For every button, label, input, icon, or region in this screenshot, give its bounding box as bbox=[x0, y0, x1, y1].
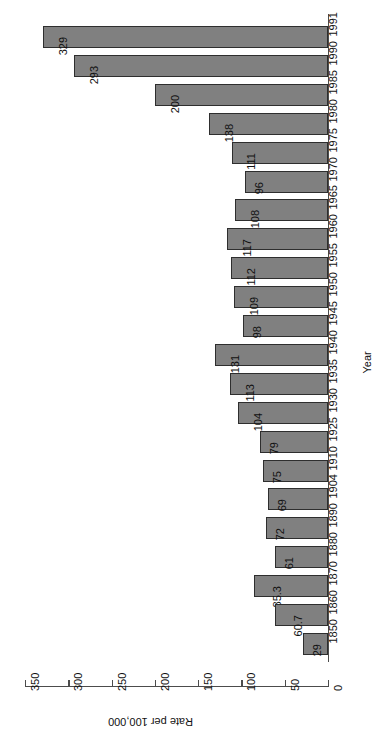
value-tick-mark bbox=[68, 680, 69, 687]
category-tick-label: 1850 bbox=[328, 619, 339, 643]
bar-row: 98 bbox=[0, 315, 328, 337]
value-axis-spine bbox=[25, 686, 329, 687]
category-tick-label: 1960 bbox=[328, 214, 339, 238]
bar-row: 109 bbox=[0, 286, 328, 308]
bar-row: 293 bbox=[0, 55, 328, 77]
bar-row: 96 bbox=[0, 171, 328, 193]
bar-chart: 3292932001381119610811711210998131113104… bbox=[0, 0, 380, 735]
bar-row: 79 bbox=[0, 431, 328, 453]
bar-row: 29 bbox=[0, 633, 328, 655]
value-tick-mark bbox=[25, 680, 26, 687]
category-tick-label: 1990 bbox=[328, 41, 339, 65]
category-tick-label: 1950 bbox=[328, 272, 339, 296]
category-tick-label: 1955 bbox=[328, 243, 339, 267]
bar-value-label: 109 bbox=[249, 297, 260, 315]
value-tick-label: 350 bbox=[30, 673, 41, 691]
bar-row: 113 bbox=[0, 373, 328, 395]
value-tick-label: 250 bbox=[117, 673, 128, 691]
bar-row: 117 bbox=[0, 228, 328, 250]
bar-value-label: 96 bbox=[254, 182, 265, 194]
bar-value-label: 75 bbox=[272, 471, 283, 483]
bar-value-label: 104 bbox=[253, 413, 264, 431]
bar bbox=[254, 575, 328, 597]
value-tick-label: 300 bbox=[73, 673, 84, 691]
value-tick-mark bbox=[155, 680, 156, 687]
bar-value-label: 69 bbox=[278, 499, 289, 511]
bar bbox=[74, 55, 328, 77]
value-tick-mark bbox=[198, 680, 199, 687]
bar-value-label: 200 bbox=[170, 95, 181, 113]
category-tick-label: 1970 bbox=[328, 157, 339, 181]
bar-row: 75 bbox=[0, 460, 328, 482]
category-tick-label: 1991 bbox=[328, 12, 339, 36]
bar-value-label: 111 bbox=[246, 153, 257, 170]
bar-value-label: 113 bbox=[245, 384, 256, 402]
bar-value-label: 79 bbox=[269, 442, 280, 454]
category-tick-label: 1940 bbox=[328, 330, 339, 354]
bar-row: 108 bbox=[0, 199, 328, 221]
value-tick-label: 200 bbox=[160, 673, 171, 691]
category-tick-label: 1904 bbox=[328, 474, 339, 498]
category-tick-label: 1925 bbox=[328, 417, 339, 441]
bar-row: 60.7 bbox=[0, 604, 328, 626]
value-tick-label: 50 bbox=[290, 679, 301, 691]
bar-value-label: 117 bbox=[241, 239, 252, 257]
category-tick-label: 1985 bbox=[328, 70, 339, 94]
category-tick-label: 1975 bbox=[328, 128, 339, 152]
category-tick-label: 1870 bbox=[328, 561, 339, 585]
value-tick-label: 100 bbox=[246, 673, 257, 691]
category-tick-label: 1980 bbox=[328, 99, 339, 123]
bar bbox=[43, 26, 328, 48]
value-tick-label: 150 bbox=[203, 673, 214, 691]
bar-row: 200 bbox=[0, 84, 328, 106]
bar-row: 72 bbox=[0, 517, 328, 539]
bar-row: 138 bbox=[0, 113, 328, 135]
category-tick-label: 1965 bbox=[328, 185, 339, 209]
category-tick-label: 1880 bbox=[328, 532, 339, 556]
category-tick-label: 1910 bbox=[328, 446, 339, 470]
bar-value-label: 29 bbox=[312, 644, 323, 656]
category-tick-label: 1860 bbox=[328, 590, 339, 614]
value-axis-title: Rate per 100,000 bbox=[108, 716, 193, 727]
bar-value-label: 72 bbox=[275, 528, 286, 540]
bar-value-label: 329 bbox=[59, 37, 70, 55]
bar-row: 104 bbox=[0, 402, 328, 424]
bar-value-label: 138 bbox=[224, 124, 235, 142]
category-tick-label: 1930 bbox=[328, 388, 339, 412]
bar-value-label: 108 bbox=[250, 210, 261, 228]
value-tick-mark bbox=[241, 680, 242, 687]
bar-row: 112 bbox=[0, 257, 328, 279]
value-tick-mark bbox=[285, 680, 286, 687]
value-tick-label: 0 bbox=[333, 685, 344, 691]
category-tick-label: 1945 bbox=[328, 301, 339, 325]
bar-value-label: 112 bbox=[246, 268, 257, 286]
bar-value-label: 293 bbox=[90, 66, 101, 84]
bar-value-label: 61 bbox=[284, 557, 295, 569]
bar-value-label: 98 bbox=[252, 326, 263, 338]
value-tick-mark bbox=[328, 680, 329, 687]
plot-area: 3292932001381119610811711210998131113104… bbox=[0, 0, 380, 735]
bar-row: 69 bbox=[0, 488, 328, 510]
bar-row: 85.3 bbox=[0, 575, 328, 597]
bar-row: 329 bbox=[0, 26, 328, 48]
value-tick-mark bbox=[112, 680, 113, 687]
bar-row: 111 bbox=[0, 142, 328, 164]
category-tick-label: 1890 bbox=[328, 503, 339, 527]
category-tick-label: 1935 bbox=[328, 359, 339, 383]
bar-row: 61 bbox=[0, 546, 328, 568]
category-axis-title: Year bbox=[362, 351, 373, 373]
bar-value-label: 131 bbox=[230, 355, 241, 373]
bar-row: 131 bbox=[0, 344, 328, 366]
